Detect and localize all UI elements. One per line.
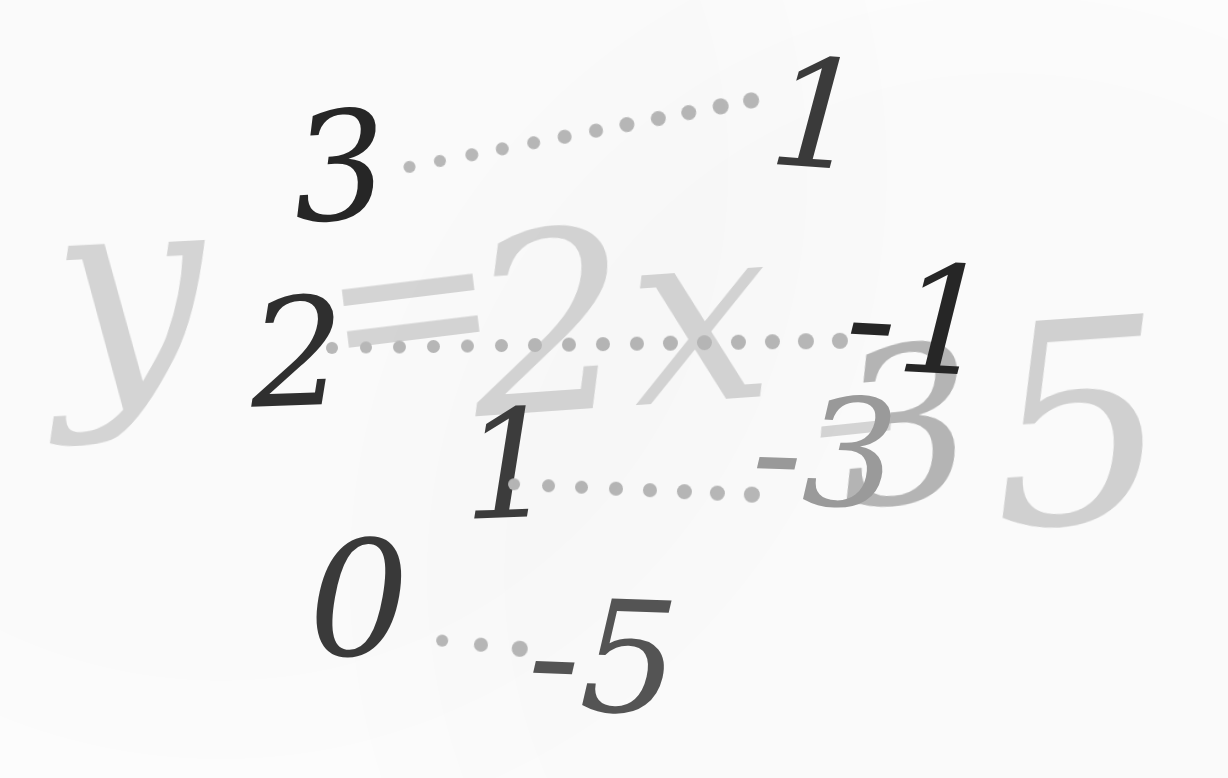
connector-dot (495, 339, 508, 352)
connector-dot (609, 481, 624, 496)
connector-dot (618, 116, 636, 134)
equation-variable-y: y (45, 151, 211, 429)
connector-dot (495, 141, 510, 156)
value-row-3-x: 0 (307, 519, 412, 681)
connector-dot (649, 110, 667, 128)
connector-dots-row-0 (404, 99, 758, 172)
connector-dot (402, 160, 416, 174)
connector-dot (511, 640, 529, 658)
connector-dot (427, 340, 440, 353)
connector-dot (642, 483, 657, 498)
connector-dot (562, 338, 576, 352)
connector-dot (680, 104, 698, 122)
value-row-0-x: 3 (287, 89, 393, 245)
worksheet-canvas: y = 2x – 3 5 3 1 2 -1 1 -3 0 -5 (0, 0, 1228, 778)
value-row-3-y: -5 (525, 577, 681, 737)
connector-dots-row-3 (436, 640, 526, 653)
connector-dot (676, 484, 692, 500)
connector-dot (464, 147, 479, 162)
connector-dot (764, 334, 779, 349)
connector-dot (711, 97, 730, 116)
connector-dot (697, 335, 712, 350)
value-row-2-x: 1 (459, 388, 560, 541)
connector-dot (557, 128, 573, 144)
connector-dot (473, 637, 488, 652)
connector-dot (433, 154, 447, 168)
equation-constant-5: 5 (980, 279, 1177, 571)
connector-dot (575, 480, 589, 494)
connector-dot (596, 337, 610, 351)
connector-dot (742, 91, 761, 110)
connector-dot (663, 336, 678, 351)
connector-dot (629, 337, 643, 351)
connector-dot (710, 485, 726, 501)
connector-dot (461, 339, 474, 352)
value-row-2-y: -3 (749, 375, 900, 530)
value-row-0-y: 1 (765, 37, 871, 193)
connector-dot (436, 634, 449, 647)
connector-dot (526, 135, 541, 150)
connector-dot (393, 340, 406, 353)
connector-dot (528, 338, 542, 352)
connector-dot (588, 122, 604, 138)
